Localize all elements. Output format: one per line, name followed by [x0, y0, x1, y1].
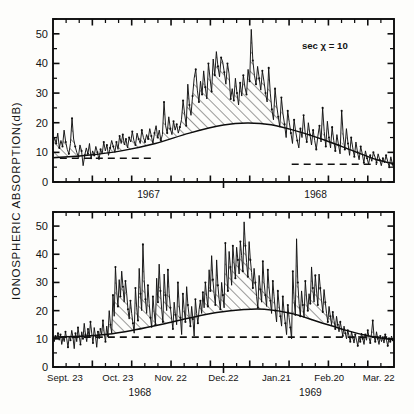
data-point [192, 95, 194, 97]
data-point [357, 345, 359, 347]
data-point [117, 305, 119, 307]
data-point [69, 339, 71, 341]
data-point [74, 145, 76, 147]
data-point [71, 117, 73, 119]
data-point [328, 137, 330, 139]
lower-tick-marks [53, 212, 394, 373]
data-point [214, 74, 216, 76]
data-point [302, 304, 304, 306]
data-point [61, 145, 63, 147]
y-tick-label: 50 [36, 28, 48, 40]
data-point [282, 296, 284, 298]
data-point [272, 280, 274, 282]
data-point [252, 287, 254, 289]
data-point [366, 157, 368, 159]
data-point [224, 242, 226, 244]
data-point [147, 138, 149, 140]
y-tick-label: 20 [36, 305, 48, 317]
data-point [134, 287, 136, 289]
data-point [131, 131, 133, 133]
y-tick-label: 20 [36, 117, 48, 129]
data-point [384, 334, 386, 336]
data-point [362, 338, 364, 340]
x-tick-label: Dec.22 [208, 372, 238, 383]
lower-year-labels: 19681969 [129, 387, 322, 398]
data-point [244, 245, 246, 247]
data-point [109, 324, 111, 326]
data-point [166, 132, 168, 134]
data-point [182, 293, 184, 295]
data-point [109, 147, 111, 149]
data-point [307, 310, 309, 312]
data-point [237, 259, 239, 261]
ionospheric-absorption-figure: IONOSPHERIC ABSORPTION(dB) 01020304050 1… [0, 0, 414, 414]
data-point [220, 56, 222, 58]
data-point [152, 296, 154, 298]
data-point [337, 324, 339, 326]
data-point [387, 345, 389, 347]
data-point [124, 280, 126, 282]
data-point [177, 281, 179, 283]
year-label: 1968 [129, 387, 152, 398]
data-point [198, 101, 200, 103]
data-point [369, 154, 371, 156]
data-point [293, 119, 295, 121]
data-point [217, 284, 219, 286]
data-point [139, 293, 141, 295]
data-point [122, 134, 124, 136]
data-point [322, 107, 324, 109]
data-point [258, 77, 260, 79]
data-point [188, 104, 190, 106]
y-tick-label: 50 [36, 220, 48, 232]
data-point [58, 147, 60, 149]
data-point [214, 304, 216, 306]
data-point [106, 144, 108, 146]
data-point [179, 126, 181, 128]
data-point [172, 328, 174, 330]
data-point [290, 132, 292, 134]
data-point [127, 308, 129, 310]
data-point [322, 311, 324, 313]
data-point [247, 276, 249, 278]
lower-plot-frame [53, 212, 394, 367]
data-point [372, 151, 374, 153]
data-point [255, 83, 257, 85]
y-axis-title: IONOSPHERIC ABSORPTION(dB) [10, 102, 22, 300]
data-point [174, 314, 176, 316]
upper-panel: 01020304050 19671968 sec χ = 10 [36, 19, 394, 200]
data-point [137, 319, 139, 321]
data-point [369, 342, 371, 344]
data-point [314, 274, 316, 276]
data-point [119, 296, 121, 298]
data-point [182, 99, 184, 101]
y-tick-label: 40 [36, 57, 48, 69]
data-point [74, 332, 76, 334]
data-point [114, 266, 116, 268]
data-point [197, 322, 199, 324]
data-point [327, 321, 329, 323]
data-point [259, 288, 261, 290]
data-point [204, 281, 206, 283]
data-point [157, 301, 159, 303]
data-point [385, 154, 387, 156]
data-point [57, 332, 59, 334]
data-point [334, 150, 336, 152]
data-point [119, 135, 121, 137]
data-point [142, 243, 144, 245]
data-point [319, 287, 321, 289]
year-label: 1968 [304, 189, 327, 200]
data-point [292, 270, 294, 272]
data-point [226, 62, 228, 64]
data-point [150, 135, 152, 137]
data-point [245, 94, 247, 96]
data-point [289, 327, 291, 329]
x-tick-label: Oct. 23 [102, 372, 133, 383]
y-tick-label: 0 [42, 176, 48, 188]
data-point [132, 322, 134, 324]
data-point [269, 300, 271, 302]
data-point [379, 335, 381, 337]
data-point [354, 334, 356, 336]
data-point [104, 341, 106, 343]
data-point [332, 311, 334, 313]
data-point [233, 99, 235, 101]
